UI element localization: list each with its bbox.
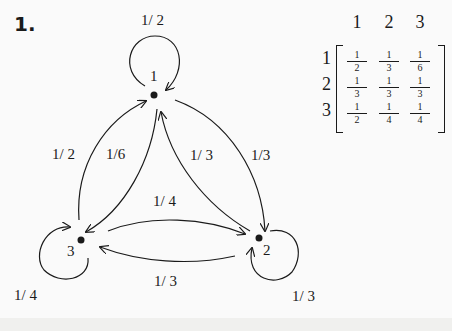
- matrix-cell-3-2: 14: [379, 102, 399, 125]
- matrix-row-header-1: 1: [322, 48, 331, 69]
- edge-label-2-2: 1/ 3: [292, 288, 315, 305]
- edge-3-3: [39, 227, 88, 279]
- matrix-left-bracket: [336, 45, 343, 133]
- node-3-dot: [78, 237, 85, 244]
- node-1-label: 1: [150, 68, 158, 85]
- node-1-dot: [151, 92, 158, 99]
- edge-label-2-3: 1/ 3: [154, 273, 177, 290]
- edge-label-3-1: 1/ 2: [52, 146, 75, 163]
- edge-label-3-2: 1/ 4: [153, 193, 176, 210]
- edge-1-2: [175, 100, 265, 231]
- matrix-col-header-1: 1: [342, 12, 372, 33]
- node-2-label: 2: [263, 242, 271, 259]
- matrix-cell-1-2: 13: [379, 50, 399, 73]
- edge-label-1-2: 1/3: [251, 147, 270, 164]
- matrix-col-header-3: 3: [405, 12, 435, 33]
- matrix-right-bracket: [438, 45, 445, 133]
- matrix-cell-1-3: 16: [410, 50, 430, 73]
- edge-label-3-3: 1/ 4: [14, 287, 37, 304]
- edge-label-1-3: 1/6: [106, 146, 125, 163]
- matrix-cell-3-1: 12: [347, 102, 367, 125]
- edge-label-2-1: 1/ 3: [190, 147, 213, 164]
- matrix-col-header-2: 2: [374, 12, 404, 33]
- matrix-cell-1-1: 12: [347, 50, 367, 73]
- node-2-dot: [256, 235, 263, 242]
- edge-label-1-1: 1/ 2: [141, 12, 164, 29]
- node-3-label: 3: [67, 243, 75, 260]
- matrix-cell-2-1: 13: [347, 76, 367, 99]
- matrix-cell-2-3: 13: [410, 76, 430, 99]
- matrix-cell-2-2: 13: [379, 76, 399, 99]
- edge-3-2: [108, 220, 245, 234]
- matrix-row-header-3: 3: [322, 100, 331, 121]
- matrix-row-header-2: 2: [322, 74, 331, 95]
- edge-1-3: [86, 109, 157, 232]
- matrix-cell-3-3: 14: [410, 102, 430, 125]
- edge-2-1: [161, 112, 250, 231]
- edge-2-3: [100, 247, 235, 262]
